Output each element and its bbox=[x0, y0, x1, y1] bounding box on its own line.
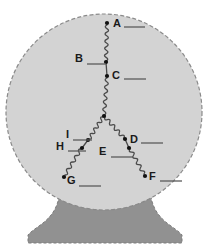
label-f: F bbox=[149, 170, 156, 182]
winding-diagram: ABCDEFGHI bbox=[0, 0, 209, 249]
node-tap-e bbox=[127, 146, 131, 150]
label-c: C bbox=[112, 69, 120, 81]
node-apex bbox=[102, 114, 106, 118]
label-d: D bbox=[130, 133, 138, 145]
label-i: I bbox=[66, 128, 69, 140]
label-b: B bbox=[75, 52, 83, 64]
node-terminal-g bbox=[62, 175, 66, 179]
node-terminal-f bbox=[143, 174, 147, 178]
node-tap-d bbox=[123, 137, 127, 141]
label-h: H bbox=[56, 140, 64, 152]
label-g: G bbox=[67, 174, 76, 186]
node-tap-h bbox=[80, 146, 84, 150]
node-tap-c bbox=[105, 74, 109, 78]
node-terminal-a bbox=[105, 21, 109, 25]
figure-canvas: ABCDEFGHI bbox=[0, 0, 209, 249]
label-e: E bbox=[99, 145, 106, 157]
label-a: A bbox=[113, 17, 121, 29]
